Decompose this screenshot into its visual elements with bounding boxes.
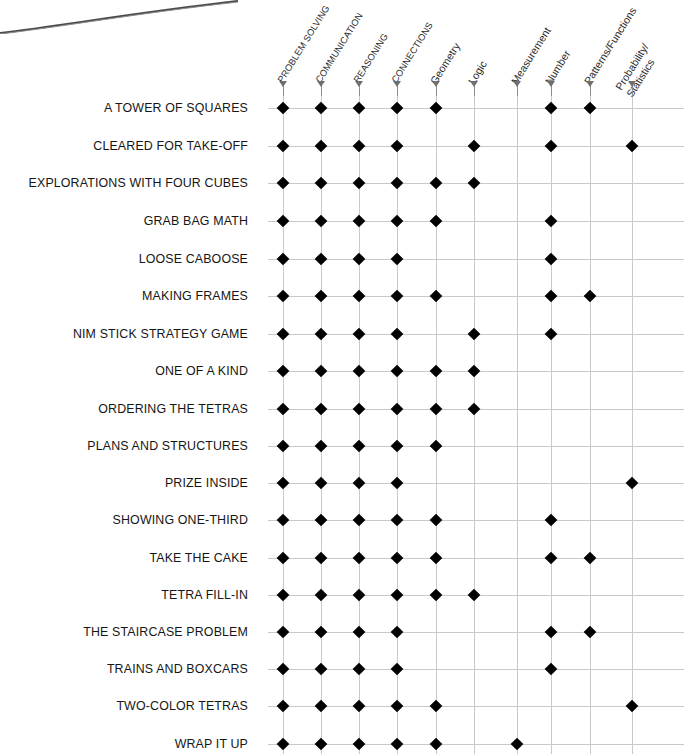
chevron-down-icon bbox=[432, 81, 440, 87]
row-label-3[interactable]: GRAB BAG MATH bbox=[0, 214, 248, 228]
chevron-down-icon bbox=[586, 81, 594, 87]
row-label-10[interactable]: PRIZE INSIDE bbox=[0, 476, 248, 490]
row-label-13[interactable]: TETRA FILL-IN bbox=[0, 588, 248, 602]
chevron-down-icon bbox=[470, 81, 478, 87]
grid-row-line bbox=[268, 108, 684, 109]
grid-column-line bbox=[517, 86, 518, 754]
grid-column-line bbox=[551, 86, 552, 754]
grid-column-line bbox=[632, 86, 633, 754]
row-label-8[interactable]: ORDERING THE TETRAS bbox=[0, 402, 248, 416]
chevron-down-icon bbox=[628, 81, 636, 87]
grid-row-line bbox=[268, 558, 684, 559]
row-label-12[interactable]: TAKE THE CAKE bbox=[0, 551, 248, 565]
grid-column-line bbox=[590, 86, 591, 754]
grid-row-line bbox=[268, 520, 684, 521]
correlation-matrix: PROBLEM SOLVINGCOMMUNICATIONREASONINGCON… bbox=[0, 0, 684, 754]
row-label-1[interactable]: CLEARED FOR TAKE-OFF bbox=[0, 139, 248, 153]
row-label-16[interactable]: TWO-COLOR TETRAS bbox=[0, 699, 248, 713]
chevron-down-icon bbox=[279, 81, 287, 87]
chevron-down-icon bbox=[317, 81, 325, 87]
row-label-2[interactable]: EXPLORATIONS WITH FOUR CUBES bbox=[0, 176, 248, 190]
row-label-4[interactable]: LOOSE CABOOSE bbox=[0, 252, 248, 266]
grid-row-line bbox=[268, 221, 684, 222]
row-label-14[interactable]: THE STAIRCASE PROBLEM bbox=[0, 625, 248, 639]
grid-row-line bbox=[268, 296, 684, 297]
row-label-11[interactable]: SHOWING ONE-THIRD bbox=[0, 513, 248, 527]
row-label-6[interactable]: NIM STICK STRATEGY GAME bbox=[0, 327, 248, 341]
grid-row-line bbox=[268, 706, 684, 707]
row-label-0[interactable]: A TOWER OF SQUARES bbox=[0, 101, 248, 115]
chevron-down-icon bbox=[355, 81, 363, 87]
grid-row-line bbox=[268, 744, 684, 745]
row-label-17[interactable]: WRAP IT UP bbox=[0, 737, 248, 751]
grid-row-line bbox=[268, 259, 684, 260]
row-label-15[interactable]: TRAINS AND BOXCARS bbox=[0, 662, 248, 676]
chevron-down-icon bbox=[393, 81, 401, 87]
row-label-9[interactable]: PLANS AND STRUCTURES bbox=[0, 439, 248, 453]
grid-row-line bbox=[268, 483, 684, 484]
grid-row-line bbox=[268, 446, 684, 447]
chevron-down-icon bbox=[513, 81, 521, 87]
row-label-7[interactable]: ONE OF A KIND bbox=[0, 364, 248, 378]
grid-row-line bbox=[268, 632, 684, 633]
grid-row-line bbox=[268, 669, 684, 670]
chevron-down-icon bbox=[547, 81, 555, 87]
row-label-5[interactable]: MAKING FRAMES bbox=[0, 289, 248, 303]
